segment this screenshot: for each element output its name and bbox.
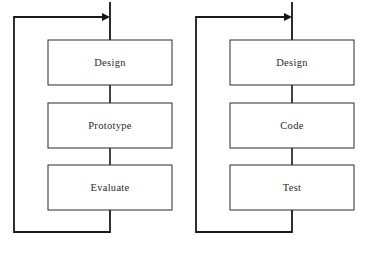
left-cycle-group: Design Prototype Evaluate (14, 2, 172, 232)
diagram-canvas: Design Prototype Evaluate Design Code Te… (0, 0, 367, 253)
right-cycle-group: Design Code Test (196, 2, 354, 232)
iterative-lifecycle-diagram: Design Prototype Evaluate Design Code Te… (0, 0, 367, 253)
right-box-test-label: Test (283, 182, 302, 193)
right-box-code-label: Code (280, 120, 303, 131)
left-feedback-arrow-icon (102, 13, 110, 21)
right-feedback-arrow-icon (284, 13, 292, 21)
left-box-prototype-label: Prototype (88, 120, 132, 131)
left-box-evaluate-label: Evaluate (90, 182, 129, 193)
left-box-design-label: Design (94, 57, 126, 68)
right-box-design-label: Design (276, 57, 308, 68)
